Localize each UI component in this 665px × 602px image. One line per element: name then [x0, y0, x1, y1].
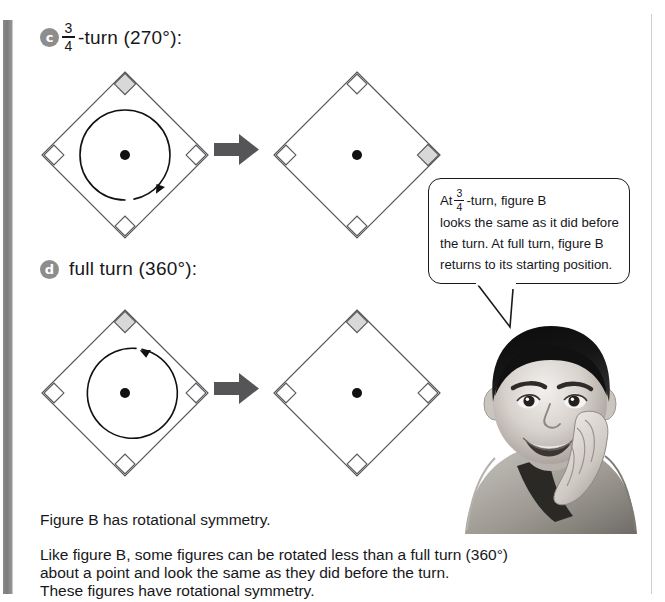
callout-fraction-three-quarters: 3 4 [454, 188, 464, 212]
center-point [352, 150, 362, 160]
item-c-heading: c 3 4 -turn (270°): [40, 22, 182, 54]
figure-b-before-three-quarter-turn [32, 62, 218, 248]
center-point [120, 150, 130, 160]
bullet-c: c [40, 28, 59, 47]
center-point [352, 388, 362, 398]
figure-b-after-three-quarter-turn [264, 62, 450, 248]
bullet-d: d [40, 260, 59, 279]
item-d-heading: d full turn (360°): [40, 258, 197, 280]
item-c-label-suffix: -turn (270°): [78, 27, 182, 49]
figure-b-before-full-turn [32, 300, 218, 486]
paragraph-figure-b-symmetry: Figure B has rotational symmetry. [40, 509, 271, 531]
page-gutter-edge [12, 20, 13, 594]
callout-line-1-prefix: At [440, 190, 452, 211]
paragraph-rotational-symmetry-line-3: These figures have rotational symmetry. [40, 580, 315, 602]
item-c-label: 3 4 -turn (270°): [59, 22, 182, 54]
callout-line-1: At 3 4 -turn, figure B [440, 188, 618, 212]
transform-arrow-d [214, 372, 260, 409]
callout-line-3: the turn. At full turn, figure B [440, 233, 618, 254]
center-point [120, 388, 130, 398]
figure-b-after-full-turn [264, 300, 450, 486]
fraction-three-quarters: 3 4 [62, 21, 75, 53]
page-gutter-bar [3, 20, 12, 594]
callout-line-1-suffix: -turn, figure B [466, 190, 546, 211]
callout-line-2: looks the same as it did before [440, 212, 618, 233]
item-d-label: full turn (360°): [69, 258, 197, 280]
photo-of-smiling-boy [455, 316, 641, 534]
callout-line-4: returns to its starting position. [440, 254, 618, 275]
page-right-rule [651, 14, 652, 594]
callout-bubble: At 3 4 -turn, figure B looks the same as… [428, 178, 630, 284]
transform-arrow-c [214, 133, 260, 170]
